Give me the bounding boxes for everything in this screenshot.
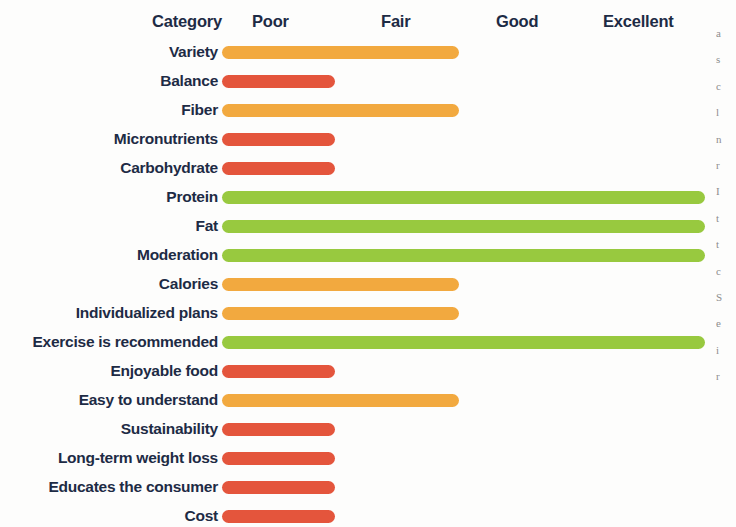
rating-bar <box>222 452 335 465</box>
bar-track <box>222 423 712 436</box>
row-label: Individualized plans <box>76 303 218 323</box>
bar-track <box>222 278 712 291</box>
row-label: Sustainability <box>121 419 218 439</box>
header-scale-excellent: Excellent <box>603 12 674 31</box>
chart-row: Moderation <box>0 244 736 273</box>
chart-row: Calories <box>0 273 736 302</box>
row-label: Educates the consumer <box>48 477 218 497</box>
chart-row: Protein <box>0 186 736 215</box>
margin-text-fragment: n <box>716 126 736 152</box>
chart-rows: VarietyBalanceFiberMicronutrientsCarbohy… <box>0 41 736 527</box>
rating-chart: Category Poor Fair Good Excellent Variet… <box>0 0 736 527</box>
rating-bar <box>222 423 335 436</box>
chart-row: Long-term weight loss <box>0 447 736 476</box>
row-label: Micronutrients <box>114 129 218 149</box>
row-label: Calories <box>159 274 218 294</box>
margin-text-fragment: t <box>716 205 736 231</box>
chart-row: Enjoyable food <box>0 360 736 389</box>
bar-track <box>222 452 712 465</box>
header-scale-poor: Poor <box>252 12 289 31</box>
margin-text-fragment: i <box>716 337 736 363</box>
margin-text-fragment: e <box>716 310 736 336</box>
rating-bar <box>222 307 459 320</box>
margin-text-fragment: t <box>716 231 736 257</box>
clipped-margin-text: asclnrIttcSeir <box>716 20 736 520</box>
chart-row: Cost <box>0 505 736 527</box>
chart-row: Educates the consumer <box>0 476 736 505</box>
rating-bar <box>222 46 459 59</box>
bar-track <box>222 220 712 233</box>
row-label: Exercise is recommended <box>32 332 218 352</box>
row-label: Carbohydrate <box>120 158 218 178</box>
row-label: Protein <box>166 187 218 207</box>
row-label: Long-term weight loss <box>58 448 218 468</box>
row-label: Moderation <box>137 245 218 265</box>
row-label: Fat <box>196 216 219 236</box>
bar-track <box>222 336 712 349</box>
chart-row: Easy to understand <box>0 389 736 418</box>
bar-track <box>222 481 712 494</box>
bar-track <box>222 75 712 88</box>
chart-row: Individualized plans <box>0 302 736 331</box>
chart-header-row: Category Poor Fair Good Excellent <box>0 12 736 38</box>
rating-bar <box>222 75 335 88</box>
chart-row: Fiber <box>0 99 736 128</box>
bar-track <box>222 162 712 175</box>
margin-text-fragment: s <box>716 46 736 72</box>
rating-bar <box>222 365 335 378</box>
rating-bar <box>222 510 335 523</box>
rating-bar <box>222 191 705 204</box>
bar-track <box>222 510 712 523</box>
margin-text-fragment: c <box>716 258 736 284</box>
header-scale-fair: Fair <box>381 12 410 31</box>
row-label: Cost <box>185 506 218 526</box>
margin-text-fragment: S <box>716 284 736 310</box>
rating-bar <box>222 249 705 262</box>
bar-track <box>222 249 712 262</box>
chart-row: Micronutrients <box>0 128 736 157</box>
rating-bar <box>222 336 705 349</box>
bar-track <box>222 104 712 117</box>
chart-row: Exercise is recommended <box>0 331 736 360</box>
row-label: Enjoyable food <box>110 361 218 381</box>
bar-track <box>222 46 712 59</box>
chart-row: Sustainability <box>0 418 736 447</box>
chart-row: Variety <box>0 41 736 70</box>
margin-text-fragment: r <box>716 152 736 178</box>
margin-text-fragment: I <box>716 178 736 204</box>
bar-track <box>222 133 712 146</box>
bar-track <box>222 191 712 204</box>
row-label: Balance <box>160 71 218 91</box>
row-label: Fiber <box>181 100 218 120</box>
row-label: Easy to understand <box>79 390 218 410</box>
margin-text-fragment: r <box>716 363 736 389</box>
margin-text-fragment: a <box>716 20 736 46</box>
header-category: Category <box>152 12 222 31</box>
chart-row: Balance <box>0 70 736 99</box>
header-scale-good: Good <box>496 12 538 31</box>
rating-bar <box>222 481 335 494</box>
margin-text-fragment: c <box>716 73 736 99</box>
bar-track <box>222 365 712 378</box>
rating-bar <box>222 394 459 407</box>
rating-bar <box>222 162 335 175</box>
row-label: Variety <box>169 42 218 62</box>
chart-row: Carbohydrate <box>0 157 736 186</box>
rating-bar <box>222 104 459 117</box>
rating-bar <box>222 278 459 291</box>
margin-text-fragment: l <box>716 99 736 125</box>
bar-track <box>222 307 712 320</box>
bar-track <box>222 394 712 407</box>
chart-row: Fat <box>0 215 736 244</box>
rating-bar <box>222 133 335 146</box>
rating-bar <box>222 220 705 233</box>
